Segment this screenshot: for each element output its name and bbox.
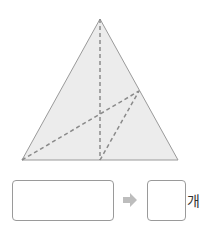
expression-answer-box[interactable] xyxy=(12,180,114,221)
unit-label: 개 xyxy=(187,190,200,210)
count-answer-box[interactable] xyxy=(147,180,186,221)
triangle-figure xyxy=(0,0,214,170)
right-arrow-icon xyxy=(123,193,137,207)
